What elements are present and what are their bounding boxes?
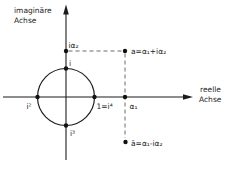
imaginary-axis-label-line1: imaginäre — [14, 6, 52, 15]
imaginary-axis-arrowhead-icon — [63, 5, 69, 15]
complex-plane-diagram: imaginäre Achse reelle Achse iα₂ i i² i³… — [0, 0, 233, 170]
label-i-squared: i² — [27, 102, 32, 111]
point-dot-a-conjugate — [123, 140, 127, 144]
point-dot-i — [64, 66, 68, 70]
complex-plane-figure: imaginäre Achse reelle Achse iα₂ i i² i³… — [0, 0, 233, 170]
label-i-cubed: i³ — [70, 129, 75, 138]
point-dot-i-squared — [35, 95, 39, 99]
real-axis-label-line1: reelle — [200, 85, 221, 94]
point-dot-a — [123, 49, 127, 53]
point-dot-i-cubed — [64, 123, 68, 127]
label-one-equals-i4: 1=i⁴ — [97, 102, 113, 111]
label-a: a=α₁+iα₂ — [131, 47, 166, 56]
label-alpha1: α₁ — [130, 102, 138, 111]
real-axis-label-line2: Achse — [199, 95, 222, 104]
point-dot-alpha1 — [123, 95, 127, 99]
imaginary-axis-label-line2: Achse — [14, 16, 37, 25]
label-i: i — [69, 59, 71, 68]
label-a-conjugate: ā=α₁-iα₂ — [131, 139, 163, 148]
point-dot-one — [92, 95, 96, 99]
real-axis-arrowhead-icon — [183, 94, 193, 100]
label-i-alpha2: iα₂ — [69, 41, 79, 50]
